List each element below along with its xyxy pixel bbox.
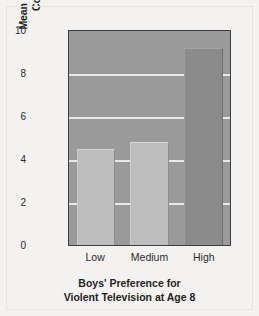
y-tick-label-0: 0 [0,240,26,251]
bar-group [69,31,230,245]
bar-medium[interactable] [130,142,169,245]
y-tick-label-4: 4 [0,154,26,165]
bar-slot-low [69,31,123,245]
y-tick-label-6: 6 [0,111,26,122]
y-tick-label-2: 2 [0,197,26,208]
x-axis-title-line-1: Boys' Preference for [20,277,239,291]
x-tick-label-high: High [177,251,231,263]
y-axis-title-line-2: Convictions by Age 30 [30,0,43,11]
plot-area [68,30,231,246]
bar-slot-medium [123,31,177,245]
y-tick-label-8: 8 [0,68,26,79]
plot-canvas [68,30,231,246]
bar-high[interactable] [184,48,223,245]
y-tick-label-10: 10 [0,25,26,36]
chart-figure: Mean Seriousness of Criminal Convictions… [0,0,259,316]
bar-low[interactable] [77,149,116,245]
x-tick-label-low: Low [68,251,122,263]
x-tick-label-medium: Medium [122,251,176,263]
bar-slot-high [176,31,230,245]
x-tick-labels: Low Medium High [68,251,231,263]
x-axis-title-line-2: Violent Television at Age 8 [20,291,239,305]
x-axis-title: Boys' Preference for Violent Television … [20,277,239,304]
